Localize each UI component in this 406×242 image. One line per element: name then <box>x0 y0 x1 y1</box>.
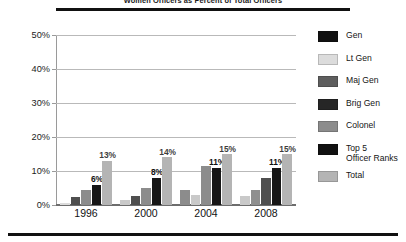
legend-item: Lt Gen <box>318 53 402 66</box>
legend-item: Top 5 Officer Ranks <box>318 143 402 164</box>
legend-swatch <box>318 99 338 110</box>
bar-group: 6%13% <box>56 35 116 205</box>
legend-item: Maj Gen <box>318 75 402 88</box>
bar-value-label: 6% <box>91 174 103 184</box>
legend-item: Colonel <box>318 120 402 133</box>
legend-swatch <box>318 144 338 155</box>
bar-value-label: 13% <box>99 150 116 160</box>
y-axis-tick-label: 40% <box>32 64 50 74</box>
legend-label: Total <box>346 170 364 180</box>
page-title: Women Officers as Percent of Total Offic… <box>0 0 406 5</box>
y-axis-tick-label: 10% <box>32 166 50 176</box>
bar <box>71 197 81 206</box>
bar: 8% <box>152 178 162 205</box>
x-axis-tick-label: 2004 <box>176 207 236 219</box>
bar <box>81 190 91 205</box>
gridline <box>56 205 296 206</box>
bar <box>180 190 190 205</box>
bar <box>201 166 211 205</box>
legend-swatch <box>318 121 338 132</box>
legend-label: Top 5 Officer Ranks <box>346 143 398 164</box>
bar-group: 11%15% <box>176 35 236 205</box>
plot-area: 0%10%20%30%40%50% 6%13%8%14%11%15%11%15% <box>56 35 296 205</box>
y-axis-tick-label: 50% <box>32 30 50 40</box>
bar-group: 8%14% <box>116 35 176 205</box>
bar <box>131 196 141 205</box>
legend-item: Gen <box>318 30 402 43</box>
y-axis-tick-label: 30% <box>32 98 50 108</box>
x-axis-tick-label: 1996 <box>56 207 116 219</box>
legend-label: Brig Gen <box>346 98 380 108</box>
bar <box>120 200 130 205</box>
bar: 11% <box>212 168 222 205</box>
legend-label: Maj Gen <box>346 75 378 85</box>
footer-rule <box>8 233 398 236</box>
legend-label: Lt Gen <box>346 53 372 63</box>
bar: 13% <box>102 161 112 205</box>
chart-page: Women Officers as Percent of Total Offic… <box>0 0 406 242</box>
bar-value-label: 15% <box>279 144 296 154</box>
bar <box>141 188 151 205</box>
bar: 15% <box>222 154 232 205</box>
y-axis-tick-label: 20% <box>32 132 50 142</box>
x-axis-tick-label: 2008 <box>236 207 296 219</box>
x-axis-labels: 1996200020042008 <box>56 207 296 219</box>
chart-legend: GenLt GenMaj GenBrig GenColonelTop 5 Off… <box>318 30 402 193</box>
legend-item: Total <box>318 170 402 183</box>
bar <box>251 190 261 205</box>
legend-item: Brig Gen <box>318 98 402 111</box>
bar: 11% <box>272 168 282 205</box>
title-rule-top <box>56 8 350 11</box>
bar-value-label: 8% <box>151 167 163 177</box>
bar-value-label: 15% <box>219 144 236 154</box>
legend-swatch <box>318 54 338 65</box>
bar: 14% <box>162 157 172 205</box>
bar <box>191 195 201 205</box>
y-axis-tick-label: 0% <box>37 200 50 210</box>
bar <box>240 196 250 205</box>
legend-swatch <box>318 76 338 87</box>
bar: 15% <box>282 154 292 205</box>
legend-label: Colonel <box>346 120 375 130</box>
legend-label: Gen <box>346 30 362 40</box>
y-tick-mark <box>52 205 56 206</box>
legend-swatch <box>318 171 338 182</box>
x-axis-tick-label: 2000 <box>116 207 176 219</box>
bar <box>60 203 70 205</box>
bar-groups: 6%13%8%14%11%15%11%15% <box>56 35 296 205</box>
bar-group: 11%15% <box>236 35 296 205</box>
bar-value-label: 14% <box>159 147 176 157</box>
bar: 6% <box>92 185 102 205</box>
legend-swatch <box>318 31 338 42</box>
bar <box>261 178 271 205</box>
